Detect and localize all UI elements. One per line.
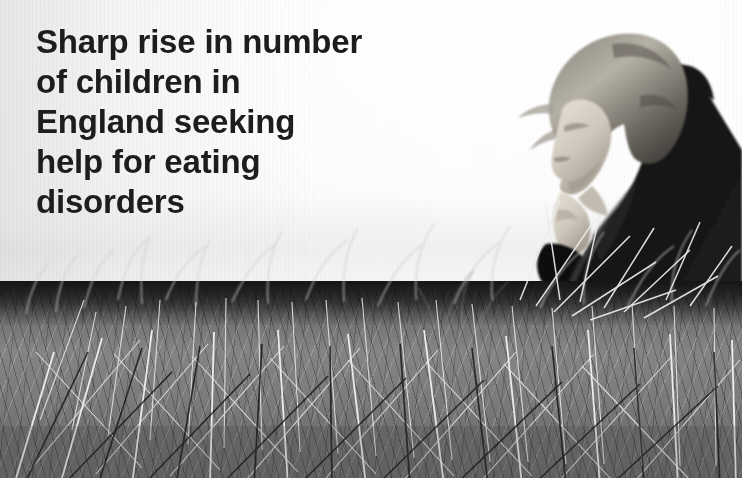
article-photo-card: Sharp rise in number of children in Engl… (0, 0, 742, 485)
headline-line-5: disorders (36, 182, 396, 222)
headline-line-2: of children in (36, 62, 396, 102)
grass-back-blades (26, 224, 740, 314)
headline-line-4: help for eating (36, 142, 396, 182)
headline: Sharp rise in number of children in Engl… (36, 22, 396, 222)
headline-line-3: England seeking (36, 102, 396, 142)
grass-left-sparse-twigs (418, 270, 508, 330)
bottom-caption-strip (0, 478, 742, 485)
grass-right-tuft (520, 200, 732, 320)
ground-bottom-haze (0, 426, 742, 485)
headline-line-1: Sharp rise in number (36, 22, 396, 62)
